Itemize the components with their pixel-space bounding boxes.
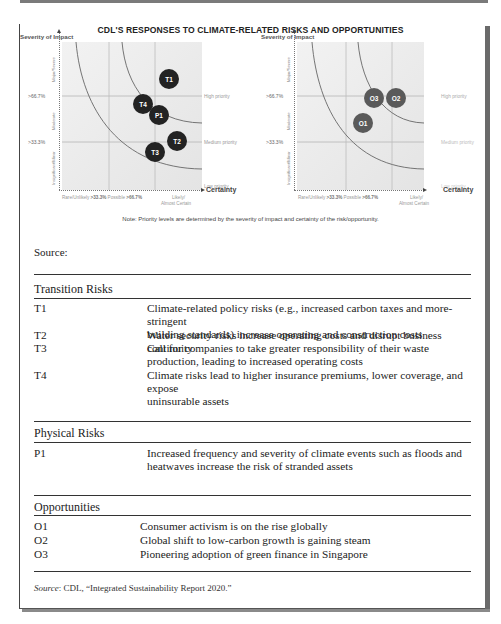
chart-grid-and-curves bbox=[0, 0, 501, 215]
frame-shadow-bottom bbox=[22, 609, 490, 612]
row-code: T3 bbox=[34, 342, 47, 355]
x-cat-possible: Possible bbox=[344, 195, 361, 200]
x-tick-66: >66.7% bbox=[362, 195, 378, 200]
section-heading-opportunities: Opportunities bbox=[34, 500, 100, 515]
row-desc-line: Climate-related policy risks (e.g., incr… bbox=[147, 302, 452, 327]
x-axis-arrow-icon bbox=[423, 188, 427, 192]
divider bbox=[34, 442, 471, 443]
point-o3: O3 bbox=[364, 88, 384, 108]
row-desc-line: Global shift to low-carbon growth is gai… bbox=[140, 534, 371, 546]
row-desc-line: Consumer activism is on the rise globall… bbox=[140, 520, 328, 532]
priority-high: High priority bbox=[441, 94, 467, 99]
row-desc-line: uninsurable assets bbox=[147, 395, 229, 407]
x-tick-33: >33.3% bbox=[327, 195, 343, 200]
y-axis bbox=[294, 33, 295, 190]
row-desc-line: production, leading to increased operati… bbox=[147, 355, 363, 367]
row-desc-line: Climate risks lead to higher insurance p… bbox=[147, 369, 463, 394]
section-heading-physical-risks: Physical Risks bbox=[34, 426, 104, 441]
y-cat-moderate: Moderate bbox=[286, 112, 291, 130]
x-cat-likely: Likely/ bbox=[410, 195, 423, 200]
row-desc-line: Call for companies to take greater respo… bbox=[147, 342, 429, 354]
y-cat-minor: Insignificant/Minor bbox=[286, 151, 291, 185]
row-code: P1 bbox=[34, 447, 46, 460]
point-o2: O2 bbox=[386, 88, 406, 108]
x-axis-title: Certainty bbox=[443, 186, 473, 193]
opportunities-chart: Severity of Impact >66.7% >33.3% Major/S… bbox=[0, 0, 501, 215]
divider bbox=[34, 298, 471, 299]
section-heading-transition-risks: Transition Risks bbox=[34, 282, 113, 297]
footer-source-label: Source bbox=[34, 583, 59, 593]
row-description: Pioneering adoption of green finance in … bbox=[140, 548, 368, 561]
y-cat-major: Major/Severe bbox=[286, 57, 291, 82]
row-description: Climate risks lead to higher insurance p… bbox=[147, 369, 471, 408]
x-cat-rare: Rare/Unlikely bbox=[298, 195, 325, 200]
row-desc-line: Pioneering adoption of green finance in … bbox=[140, 548, 368, 560]
footer-source: Source: CDL, “Integrated Sustainability … bbox=[34, 583, 231, 593]
divider bbox=[34, 515, 471, 516]
row-description: Call for companies to take greater respo… bbox=[147, 342, 429, 368]
row-description: Consumer activism is on the rise globall… bbox=[140, 520, 328, 533]
point-o1: O1 bbox=[353, 113, 373, 133]
row-description: Increased frequency and severity of clim… bbox=[147, 447, 462, 473]
row-code: O2 bbox=[34, 534, 48, 547]
y-tick-medium: >33.3% bbox=[266, 139, 283, 145]
divider bbox=[34, 421, 471, 422]
x-axis bbox=[294, 190, 424, 191]
row-code: O1 bbox=[34, 520, 48, 533]
row-description: Global shift to low-carbon growth is gai… bbox=[140, 534, 371, 547]
divider bbox=[34, 274, 471, 275]
divider bbox=[34, 495, 471, 496]
x-cat-almost-certain: Almost Certain bbox=[399, 201, 429, 206]
row-desc-line: heatwaves increase the risk of stranded … bbox=[147, 460, 353, 472]
x-cat-row: Rare/Unlikely >33.3% Possible >66.7% bbox=[298, 195, 378, 200]
source-label: Source: bbox=[34, 246, 68, 258]
row-code: O3 bbox=[34, 548, 48, 561]
y-axis-arrow-icon bbox=[292, 29, 296, 33]
row-desc-line: Increased frequency and severity of clim… bbox=[147, 447, 462, 459]
priority-medium: Medium priority bbox=[441, 140, 474, 145]
row-code: T2 bbox=[34, 329, 47, 342]
row-code: T4 bbox=[34, 369, 47, 382]
footer-source-text: : CDL, “Integrated Sustainability Report… bbox=[59, 583, 232, 593]
y-tick-high: >66.7% bbox=[266, 93, 283, 99]
figure-note: Note: Priority levels are determined by … bbox=[0, 216, 501, 222]
divider bbox=[34, 571, 471, 572]
row-code: T1 bbox=[34, 302, 47, 315]
